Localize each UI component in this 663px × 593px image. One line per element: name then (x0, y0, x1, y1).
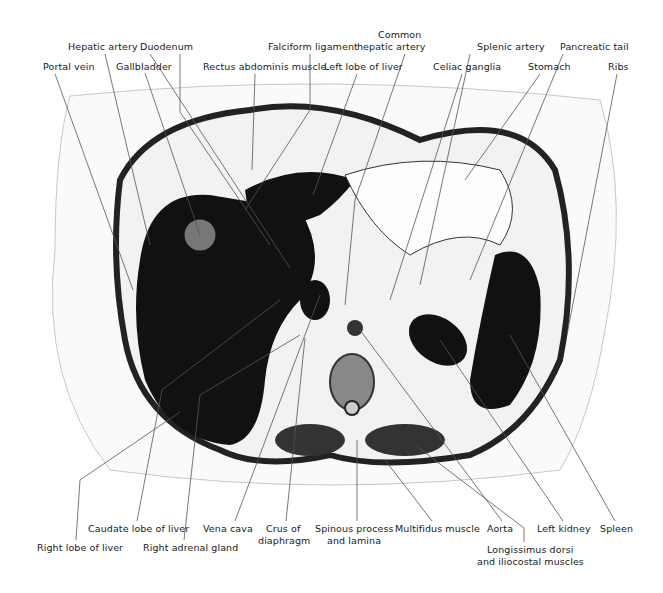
label-vena-cava: Vena cava (203, 523, 253, 535)
label-common-hepatic-artery-line2: hepatic artery (357, 41, 426, 53)
label-left-kidney: Left kidney (537, 523, 591, 535)
label-duodenum: Duodenum (140, 41, 193, 53)
label-portal-vein: Portal vein (43, 61, 95, 73)
label-pancreatic-tail: Pancreatic tail (560, 41, 629, 53)
label-gallbladder: Gallbladder (116, 61, 172, 73)
label-longissimus-dorsi-line2: and iliocostal muscles (477, 556, 584, 568)
anatomy-figure: Hepatic artery Duodenum Falciform ligame… (0, 0, 663, 593)
label-left-lobe-of-liver: Left lobe of liver (324, 61, 403, 73)
label-stomach: Stomach (528, 61, 571, 73)
label-hepatic-artery: Hepatic artery (68, 41, 138, 53)
aorta-vessel (347, 320, 363, 336)
label-falciform-ligament: Falciform ligament (268, 41, 358, 53)
vena-cava-vessel (300, 280, 330, 320)
label-celiac-ganglia: Celiac ganglia (433, 61, 501, 73)
label-splenic-artery: Splenic artery (477, 41, 545, 53)
spinal-canal (345, 401, 359, 415)
label-spinous-process: Spinous process (315, 523, 394, 535)
label-spleen: Spleen (600, 523, 633, 535)
label-aorta: Aorta (487, 523, 513, 535)
label-common-hepatic-artery: Common (378, 29, 421, 41)
paraspinal-left (275, 424, 345, 456)
label-ribs: Ribs (608, 61, 629, 73)
label-multifidus-muscle: Multifidus muscle (395, 523, 480, 535)
label-longissimus-dorsi: Longissimus dorsi (487, 544, 573, 556)
label-crus-of-diaphragm-line2: diaphragm (258, 535, 310, 547)
label-crus-of-diaphragm: Crus of (266, 523, 300, 535)
label-rectus-abdominis-muscle: Rectus abdominis muscle (203, 61, 326, 73)
label-caudate-lobe-of-liver: Caudate lobe of liver (88, 523, 189, 535)
label-spinous-process-line2: and lamina (327, 535, 381, 547)
cross-section-illustration (0, 0, 663, 593)
label-right-lobe-of-liver: Right lobe of liver (37, 542, 123, 554)
label-right-adrenal-gland: Right adrenal gland (143, 542, 238, 554)
